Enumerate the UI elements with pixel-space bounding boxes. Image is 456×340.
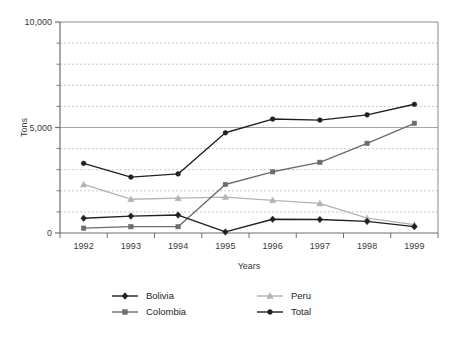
legend-colombia-marker-square: [123, 310, 128, 315]
series-line-colombia: [84, 123, 415, 228]
legend-total-marker-circle: [268, 310, 273, 315]
series-total-marker-circle: [81, 161, 86, 166]
series-total-marker-circle: [176, 172, 181, 177]
series-colombia-marker-square: [176, 224, 180, 228]
x-tick-label: 1998: [357, 241, 377, 251]
series-colombia-marker-square: [223, 182, 227, 186]
x-tick-label: 1997: [310, 241, 330, 251]
series-colombia-marker-square: [365, 141, 369, 145]
gridlines: [60, 43, 438, 212]
legend-item-total[interactable]: Total: [257, 306, 311, 317]
x-tick-label: 1993: [121, 241, 141, 251]
series-total-marker-circle: [317, 118, 322, 123]
series-peru-marker-triangle: [80, 181, 86, 187]
legend-item-peru[interactable]: Peru: [257, 290, 311, 301]
y-tick-label: 0: [47, 228, 52, 238]
series-colombia-marker-square: [412, 121, 416, 125]
x-tick-label: 1995: [215, 241, 235, 251]
legend-label-bolivia: Bolivia: [146, 290, 175, 301]
series-total-marker-circle: [270, 117, 275, 122]
x-axis: 19921993199419951996199719981999: [60, 233, 438, 251]
series-colombia-marker-square: [270, 170, 274, 174]
legend-label-total: Total: [291, 306, 311, 317]
series-bolivia-marker-diamond: [175, 212, 181, 219]
x-axis-title: Years: [238, 261, 261, 271]
series-bolivia-marker-diamond: [128, 213, 134, 220]
y-tick-label: 5,000: [29, 123, 52, 133]
series-total-marker-circle: [365, 112, 370, 117]
series-total: [81, 102, 417, 180]
series-total-marker-circle: [412, 102, 417, 107]
chart-container: 05,00010,000Tons199219931994199519961997…: [0, 0, 456, 340]
series-bolivia-marker-diamond: [317, 216, 323, 223]
series-total-marker-circle: [223, 130, 228, 135]
series-total-marker-circle: [128, 175, 133, 180]
x-tick-label: 1992: [74, 241, 94, 251]
series-bolivia-marker-diamond: [223, 229, 229, 236]
y-axis: 05,00010,000: [24, 17, 60, 238]
legend-bolivia-marker-diamond: [122, 293, 128, 300]
series-colombia-marker-square: [129, 224, 133, 228]
legend-item-bolivia[interactable]: Bolivia: [112, 290, 175, 301]
series-colombia-marker-square: [81, 226, 85, 230]
x-tick-label: 1996: [263, 241, 283, 251]
line-chart: 05,00010,000Tons199219931994199519961997…: [0, 0, 456, 340]
legend-item-colombia[interactable]: Colombia: [112, 306, 187, 317]
y-axis-title: Tons: [19, 117, 29, 137]
legend-label-peru: Peru: [291, 290, 311, 301]
x-tick-label: 1999: [404, 241, 424, 251]
series-bolivia-marker-diamond: [81, 215, 87, 222]
chart-legend: BoliviaPeruColombiaTotal: [112, 290, 311, 317]
series-colombia-marker-square: [318, 160, 322, 164]
legend-label-colombia: Colombia: [146, 306, 187, 317]
series-bolivia-marker-diamond: [270, 216, 276, 223]
y-tick-label: 10,000: [24, 17, 52, 27]
x-tick-label: 1994: [168, 241, 188, 251]
